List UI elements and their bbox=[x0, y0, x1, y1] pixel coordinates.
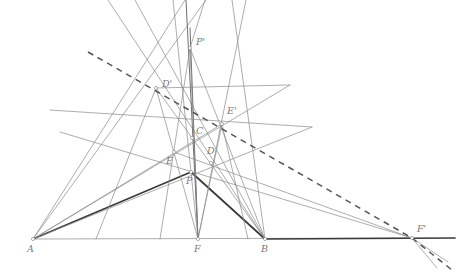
point-label-Fp: F' bbox=[416, 223, 426, 234]
point-marker-F bbox=[196, 237, 199, 240]
base-heavy-B-Fprime bbox=[265, 238, 455, 239]
geometry-figure: AFBF'CEDPP'D'E' bbox=[0, 0, 471, 277]
E-to-Fprime-line bbox=[174, 152, 412, 238]
point-marker-A bbox=[31, 237, 34, 240]
point-marker-Fp bbox=[410, 236, 413, 239]
Pprime-to-D-to-B bbox=[190, 48, 265, 239]
Fprime-lower-ray-1 bbox=[412, 238, 448, 262]
Pprime-to-F-ray bbox=[190, 48, 198, 239]
markers-layer bbox=[31, 46, 413, 240]
geometry-canvas: AFBF'CEDPP'D'E' bbox=[0, 0, 471, 277]
point-label-Ep: E' bbox=[226, 105, 237, 116]
point-marker-Dp bbox=[154, 86, 157, 89]
segments-layer bbox=[33, 0, 455, 268]
point-label-B: B bbox=[260, 243, 268, 254]
point-marker-B bbox=[263, 237, 266, 240]
point-label-Dp: D' bbox=[161, 78, 172, 89]
point-marker-Ep bbox=[220, 122, 223, 125]
A-to-Eprime-line bbox=[33, 127, 312, 239]
point-label-F: F bbox=[193, 243, 201, 254]
Dprime-to-Eprime-extend-right bbox=[156, 85, 290, 88]
point-marker-Pp bbox=[188, 46, 191, 49]
dashed-layer bbox=[88, 52, 452, 270]
point-marker-P bbox=[189, 170, 192, 173]
point-label-E: E bbox=[165, 155, 173, 166]
point-marker-C bbox=[190, 136, 193, 139]
B-to-E-line bbox=[108, 0, 265, 239]
point-label-Pp: P' bbox=[195, 36, 205, 47]
point-label-D: D bbox=[206, 145, 215, 156]
point-label-P: P bbox=[185, 175, 193, 186]
point-marker-D bbox=[209, 161, 212, 164]
point-marker-E bbox=[172, 150, 175, 153]
dashed-main-Dprime-Eprime-Fprime bbox=[88, 52, 412, 238]
dashed-beyond-Fprime bbox=[412, 238, 452, 270]
Pprime-to-E-to-A-ray bbox=[160, 48, 190, 239]
point-label-C: C bbox=[196, 125, 204, 136]
Fprime-lower-ray-2 bbox=[412, 238, 437, 268]
point-label-A: A bbox=[26, 243, 34, 254]
heavy-A-P bbox=[33, 172, 191, 239]
B-to-Eprime-ray bbox=[232, 0, 265, 239]
A-to-Dprime-ray bbox=[33, 0, 185, 239]
transversal-upperleft-to-lowerright bbox=[50, 110, 312, 127]
